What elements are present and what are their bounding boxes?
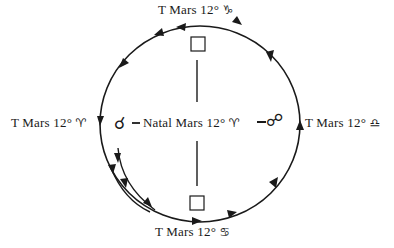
label-natal-mars: Natal Mars 12° ♈ <box>143 116 240 130</box>
label-prefix: T Mars 12° <box>158 2 219 17</box>
aries-icon: ♈ <box>229 116 240 130</box>
label-prefix: T Mars 12° <box>11 115 72 130</box>
capricorn-icon: ♑ <box>223 3 234 17</box>
conjunction-icon: ☌ <box>114 115 125 132</box>
label-transit-top: T Mars 12° ♑ <box>158 3 234 17</box>
opposition-icon: ☍ <box>266 112 283 129</box>
square-aspect-top <box>191 37 205 51</box>
cancer-icon: ♋ <box>220 225 231 239</box>
label-transit-right: T Mars 12° ♎ <box>305 116 381 130</box>
label-transit-left: T Mars 12° ♈ <box>11 116 87 130</box>
label-transit-bottom: T Mars 12° ♋ <box>155 225 231 239</box>
label-prefix: T Mars 12° <box>305 115 366 130</box>
label-prefix: Natal Mars 12° <box>143 115 225 130</box>
square-aspect-bottom <box>190 196 204 210</box>
aries-icon: ♈ <box>76 116 87 130</box>
label-prefix: T Mars 12° <box>155 224 216 239</box>
libra-icon: ♎ <box>370 116 381 130</box>
